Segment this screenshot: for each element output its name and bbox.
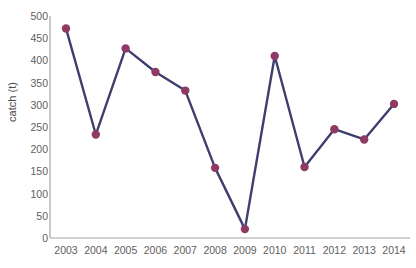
data-point-2006 [151, 68, 159, 76]
x-tick-2005: 2005 [114, 244, 137, 256]
data-point-2009 [241, 225, 249, 233]
x-tick-2006: 2006 [144, 244, 167, 256]
data-point-2014 [390, 100, 398, 108]
data-point-2010 [271, 52, 279, 60]
x-tick-2011: 2011 [293, 244, 316, 256]
x-tick-2003: 2003 [54, 244, 77, 256]
plot-area [0, 0, 416, 268]
data-point-2012 [330, 125, 338, 133]
x-tick-2010: 2010 [263, 244, 286, 256]
data-point-markers [62, 24, 398, 233]
data-point-2008 [211, 164, 219, 172]
x-tick-2007: 2007 [174, 244, 197, 256]
x-tick-2009: 2009 [233, 244, 256, 256]
data-point-2007 [181, 86, 189, 94]
x-tick-2012: 2012 [323, 244, 346, 256]
x-tick-2004: 2004 [84, 244, 107, 256]
data-line [66, 28, 394, 229]
data-point-2003 [62, 24, 70, 32]
x-tick-2014: 2014 [382, 244, 405, 256]
data-point-2011 [300, 163, 308, 171]
data-point-2013 [360, 135, 368, 143]
data-point-2004 [92, 130, 100, 138]
x-tick-2008: 2008 [203, 244, 226, 256]
line-chart: catch (t) 050100150200250300350400450500… [0, 0, 416, 268]
x-tick-2013: 2013 [352, 244, 375, 256]
data-point-2005 [121, 44, 129, 52]
